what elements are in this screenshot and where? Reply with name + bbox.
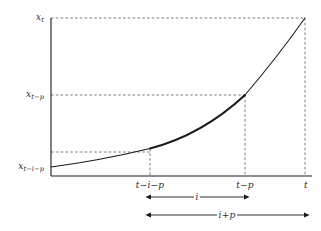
span-label-i: i [194, 193, 200, 202]
curve-segment-bold [150, 95, 245, 149]
y-label-xt-sub: t [41, 16, 44, 24]
x-label-t-text: t [304, 180, 308, 190]
x-label-t-minus-p: t−p [236, 181, 254, 190]
x-label-t-minus-i-minus-p: t−i−p [136, 181, 164, 190]
y-label-xt: xt [36, 13, 44, 23]
horizontal-guide-lines [51, 18, 305, 152]
span-label-i-text: i [195, 192, 198, 202]
y-label-xt-minus-i-minus-p-sub: t−i−p [23, 165, 44, 173]
y-label-xt-minus-p-sub: t−p [31, 93, 44, 101]
vertical-guide-lines [150, 18, 305, 176]
curve-segment-trailing [245, 18, 305, 95]
figure-canvas [0, 0, 321, 231]
span-label-i-plus-p-text: i+p [219, 210, 236, 220]
y-label-xt-minus-p: xt−p [26, 90, 44, 100]
x-label-t-minus-i-minus-p-text: t−i−p [136, 180, 164, 190]
curve-segment-leading [51, 149, 150, 168]
x-label-t-minus-p-text: t−p [236, 180, 254, 190]
y-label-xt-minus-i-minus-p: xt−i−p [18, 162, 44, 172]
span-label-i-plus-p: i+p [217, 211, 237, 220]
data-curve [51, 18, 305, 167]
x-label-t: t [304, 181, 308, 190]
figure-container: xt xt−p xt−i−p t−i−p t−p t i i+p [0, 0, 321, 231]
